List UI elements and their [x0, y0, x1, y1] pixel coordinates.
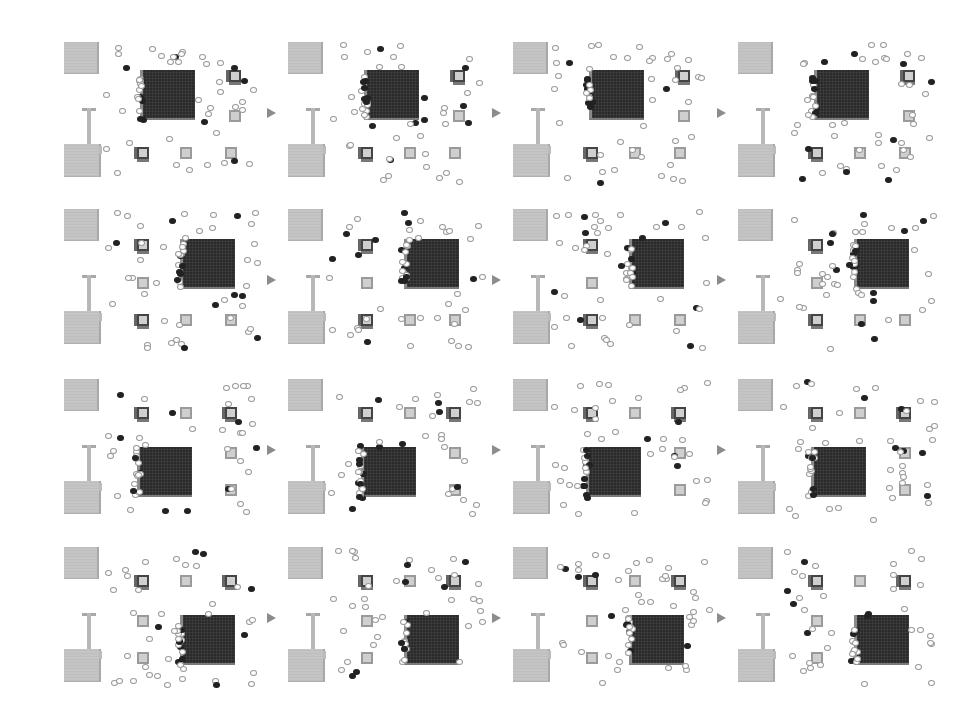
agent	[872, 385, 879, 391]
agent	[875, 132, 882, 138]
block-edge-mark	[99, 651, 102, 659]
grey-block-top	[738, 209, 773, 241]
agent	[629, 274, 636, 280]
agent	[625, 568, 632, 574]
agent	[917, 582, 924, 588]
station-box	[811, 615, 823, 627]
agent	[397, 43, 404, 49]
agent	[784, 588, 791, 594]
agent	[329, 327, 336, 333]
grey-block-bottom	[288, 311, 325, 344]
agent	[448, 338, 455, 344]
agent	[925, 500, 932, 506]
agent	[379, 614, 386, 620]
agent	[592, 405, 599, 411]
agent	[110, 448, 117, 454]
agent	[853, 386, 860, 392]
agent	[577, 317, 584, 323]
agent	[786, 506, 793, 512]
agent	[122, 567, 129, 573]
station-box	[361, 147, 373, 159]
post-stem	[761, 613, 765, 651]
agent	[824, 645, 831, 651]
agent	[158, 53, 165, 59]
agent	[477, 608, 484, 614]
agent	[605, 382, 612, 388]
next-frame-arrow-icon	[267, 445, 276, 455]
agent	[398, 64, 405, 70]
agent	[890, 561, 897, 567]
agent	[809, 626, 816, 632]
agent	[603, 553, 610, 559]
agent	[780, 404, 787, 410]
agent	[180, 666, 187, 672]
agent	[137, 223, 144, 229]
agent	[179, 656, 186, 662]
agent	[182, 562, 189, 568]
agent	[441, 584, 448, 590]
agent	[577, 383, 584, 389]
agent	[365, 583, 372, 589]
agent	[793, 383, 800, 389]
agent	[237, 458, 244, 464]
agent	[119, 108, 126, 114]
agent	[599, 169, 606, 175]
agent	[572, 245, 579, 251]
agent	[687, 343, 694, 349]
simulation-panel	[736, 207, 936, 352]
agent	[377, 46, 384, 52]
agent	[239, 430, 246, 436]
agent	[596, 381, 603, 387]
agent	[906, 82, 913, 88]
station-box	[361, 652, 373, 664]
agent	[137, 257, 144, 263]
agent	[890, 572, 897, 578]
agent	[247, 326, 254, 332]
agent	[917, 627, 924, 633]
agent	[777, 296, 784, 302]
agent	[329, 256, 336, 262]
dark-block	[361, 447, 416, 497]
agent	[615, 577, 622, 583]
agent	[446, 228, 453, 234]
block-edge-mark	[548, 483, 551, 491]
agent	[794, 270, 801, 276]
agent	[872, 59, 879, 65]
agent	[817, 662, 824, 668]
agent	[628, 283, 635, 289]
post-stem	[87, 445, 91, 483]
agent	[154, 673, 161, 679]
grey-block-top	[288, 547, 323, 579]
grey-block-top	[513, 42, 548, 74]
agent	[376, 439, 383, 445]
agent	[915, 664, 922, 670]
station-box	[137, 615, 149, 627]
agent	[851, 627, 858, 633]
station-box	[453, 70, 465, 82]
agent	[181, 211, 188, 217]
next-frame-arrow-icon	[267, 275, 276, 285]
agent	[551, 86, 558, 92]
agent	[831, 133, 838, 139]
agent	[665, 565, 672, 571]
agent	[137, 116, 144, 122]
dark-block	[404, 239, 459, 289]
station-box	[449, 147, 461, 159]
agent	[858, 292, 865, 298]
agent	[688, 134, 695, 140]
grey-block-top	[64, 547, 99, 579]
agent	[693, 478, 700, 484]
agent	[182, 235, 189, 241]
agent	[192, 549, 199, 555]
station-box	[404, 147, 416, 159]
agent	[114, 210, 121, 216]
agent	[377, 306, 384, 312]
agent	[628, 636, 635, 642]
agent	[186, 167, 193, 173]
agent	[610, 54, 617, 60]
agent	[565, 212, 572, 218]
agent	[372, 237, 379, 243]
agent	[443, 170, 450, 176]
agent	[417, 218, 424, 224]
station-box	[674, 575, 686, 587]
